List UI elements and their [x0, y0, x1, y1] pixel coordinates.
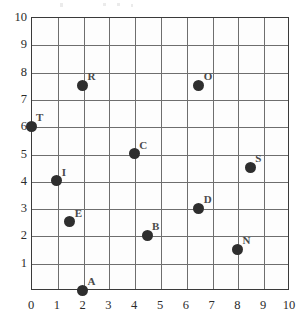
- y-axis-tick-label: 1: [3, 257, 27, 270]
- plot-area: [31, 17, 289, 290]
- gridline-vertical: [213, 18, 214, 289]
- gridline-vertical: [161, 18, 162, 289]
- data-point-marker: [129, 148, 140, 159]
- y-axis-tick-label: 7: [3, 93, 27, 106]
- x-axis-tick-label: 7: [200, 299, 224, 312]
- data-point-label: C: [139, 140, 147, 151]
- y-axis-tick-label: 2: [3, 229, 27, 242]
- y-axis-tick-label: 10: [3, 11, 27, 24]
- data-point-label: B: [152, 221, 159, 232]
- data-point-marker: [245, 162, 256, 173]
- data-point-marker: [232, 244, 243, 255]
- x-axis-tick-label: 8: [225, 299, 249, 312]
- gridline-vertical: [187, 18, 188, 289]
- y-axis-tick-label: 9: [3, 38, 27, 51]
- gridline-horizontal: [32, 264, 288, 265]
- data-point-label: R: [88, 71, 96, 82]
- data-point-marker: [26, 121, 37, 132]
- gridline-horizontal: [32, 45, 288, 46]
- data-point-label: D: [204, 194, 212, 205]
- x-axis-tick-label: 5: [148, 299, 172, 312]
- gridline-vertical: [84, 18, 85, 289]
- data-point-marker: [193, 80, 204, 91]
- data-point-label: O: [204, 71, 213, 82]
- gridline-vertical: [264, 18, 265, 289]
- scatter-plot-chart: 12345678910 012345678910 TROCSIDEBNA: [0, 0, 307, 315]
- x-axis-tick-label: 3: [96, 299, 120, 312]
- y-axis-tick-label: 6: [3, 120, 27, 133]
- gridline-horizontal: [32, 155, 288, 156]
- data-point-label: N: [242, 235, 250, 246]
- scan-artifact: [103, 3, 106, 6]
- x-axis-tick-label: 4: [122, 299, 146, 312]
- gridline-horizontal: [32, 182, 288, 183]
- data-point-marker: [77, 285, 88, 296]
- data-point-marker: [142, 230, 153, 241]
- gridline-vertical: [109, 18, 110, 289]
- gridline-horizontal: [32, 127, 288, 128]
- x-axis-tick-label: 9: [251, 299, 275, 312]
- x-axis-tick-label: 0: [19, 299, 43, 312]
- x-axis-tick-label: 10: [277, 299, 301, 312]
- y-axis-tick-label: 5: [3, 148, 27, 161]
- scan-artifact: [117, 3, 120, 6]
- x-axis-tick-label: 1: [45, 299, 69, 312]
- y-axis-tick-label: 8: [3, 66, 27, 79]
- data-point-marker: [77, 80, 88, 91]
- gridline-horizontal: [32, 209, 288, 210]
- y-axis-tick-label: 3: [3, 202, 27, 215]
- gridline-horizontal: [32, 100, 288, 101]
- gridline-horizontal: [32, 73, 288, 74]
- data-point-label: T: [36, 112, 43, 123]
- scan-artifact: [131, 4, 133, 7]
- x-axis-tick-label: 2: [71, 299, 95, 312]
- x-axis-tick-label: 6: [174, 299, 198, 312]
- data-point-label: I: [62, 167, 66, 178]
- gridline-vertical: [58, 18, 59, 289]
- scan-artifact: [60, 3, 63, 7]
- data-point-label: A: [88, 276, 96, 287]
- data-point-marker: [193, 203, 204, 214]
- data-point-label: S: [255, 153, 261, 164]
- data-point-label: E: [75, 208, 82, 219]
- y-axis-tick-label: 4: [3, 175, 27, 188]
